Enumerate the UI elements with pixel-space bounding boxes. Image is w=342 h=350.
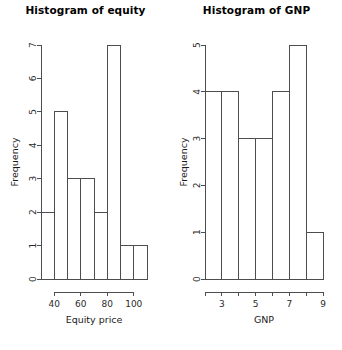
histogram-bar <box>68 179 81 279</box>
chart-panel-gnp: Histogram of GNP 012345Frequency3579GNP <box>171 0 342 350</box>
y-tick-label: 1 <box>192 229 202 235</box>
x-axis-title: GNP <box>254 314 274 325</box>
histogram-bar <box>121 246 134 279</box>
x-tick-label: 40 <box>49 299 61 309</box>
x-tick-label: 80 <box>102 299 114 309</box>
figure-canvas: Histogram of equity 01234567Frequency406… <box>0 0 342 350</box>
histogram-bar <box>107 45 120 279</box>
histogram-bar <box>272 92 289 279</box>
y-tick-label: 3 <box>28 176 38 182</box>
y-tick-label: 3 <box>192 136 202 142</box>
histogram-bar <box>41 212 54 279</box>
histogram-bar <box>94 212 107 279</box>
y-tick-label: 4 <box>192 89 202 95</box>
y-tick-label: 4 <box>28 142 38 148</box>
y-tick-label: 7 <box>28 42 38 48</box>
y-tick-label: 1 <box>28 243 38 249</box>
x-tick-label: 7 <box>286 299 292 309</box>
x-tick-label: 9 <box>320 299 326 309</box>
y-tick-label: 5 <box>28 109 38 115</box>
histogram-bar <box>306 232 323 279</box>
x-tick-label: 100 <box>125 299 142 309</box>
x-axis-title: Equity price <box>66 314 123 325</box>
y-axis-title: Frequency <box>178 137 189 186</box>
x-tick-label: 60 <box>75 299 87 309</box>
histogram-bar <box>289 45 306 279</box>
x-tick-label: 3 <box>219 299 225 309</box>
histogram-bar <box>222 92 239 279</box>
chart-panel-equity: Histogram of equity 01234567Frequency406… <box>0 0 171 350</box>
histogram-bar <box>239 139 256 279</box>
histogram-bar <box>256 139 273 279</box>
histogram-equity-plot: 01234567Frequency406080100Equity price <box>0 0 171 350</box>
y-tick-label: 2 <box>28 209 38 215</box>
y-tick-label: 2 <box>192 183 202 189</box>
y-tick-label: 0 <box>28 276 38 282</box>
histogram-bar <box>81 179 94 279</box>
histogram-bar <box>134 246 147 279</box>
y-axis-title: Frequency <box>9 137 20 186</box>
y-tick-label: 0 <box>192 276 202 282</box>
x-tick-label: 5 <box>253 299 259 309</box>
histogram-bar <box>205 92 222 279</box>
y-tick-label: 5 <box>192 42 202 48</box>
histogram-gnp-plot: 012345Frequency3579GNP <box>171 0 342 350</box>
histogram-bar <box>54 112 67 279</box>
y-tick-label: 6 <box>28 75 38 81</box>
